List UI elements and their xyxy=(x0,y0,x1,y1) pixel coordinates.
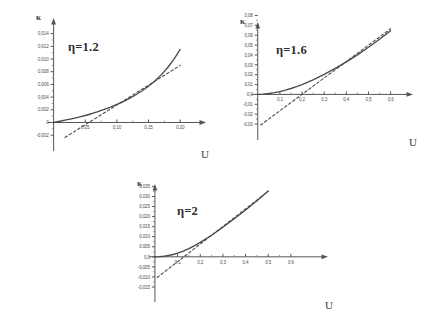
y-tick-label: -0,02 xyxy=(243,112,253,117)
y-tick-label: 0,0 xyxy=(247,92,254,97)
asymptote-dashed-line xyxy=(157,191,268,277)
x-tick-label: 0,15 xyxy=(144,125,153,130)
y-tick-label: -0,005 xyxy=(138,265,151,270)
y-axis-arrow xyxy=(153,184,158,191)
x-tick-label: 0,3 xyxy=(321,97,328,102)
y-tick-label: 0,010 xyxy=(139,234,150,239)
chart-svg-eta-1-6: -0,03-0,02-0,010,00,010,020,030,040,050,… xyxy=(216,6,421,168)
chart-panel-eta-1-2: -0,00200,0020,0040,0060,0080,0100,0120,0… xyxy=(6,6,211,168)
y-tick-label: 0,06 xyxy=(244,33,253,38)
y-tick-label: 0,008 xyxy=(38,69,49,74)
x-tick-label: 0,6 xyxy=(288,260,295,265)
y-tick-label: 0,010 xyxy=(38,57,49,62)
y-tick-label: 0,07 xyxy=(244,23,253,28)
chart-svg-eta-1-2: -0,00200,0020,0040,0060,0080,0100,0120,0… xyxy=(6,6,211,168)
x-axis-title-u: U xyxy=(325,299,333,311)
panel-annotation-eta: η=1.6 xyxy=(276,43,307,57)
y-tick-label: 0,006 xyxy=(38,82,49,87)
y-tick-label: 0,004 xyxy=(38,95,49,100)
y-tick-label: 0,012 xyxy=(38,44,49,49)
x-axis-arrow xyxy=(322,254,329,259)
x-axis-title-u: U xyxy=(409,136,417,148)
y-axis-title-kappa: κ xyxy=(137,178,142,188)
x-axis-title-u: U xyxy=(201,148,209,160)
x-tick-label: 0,5 xyxy=(265,260,272,265)
y-tick-label: 0,04 xyxy=(244,53,253,58)
x-tick-label: 0,6 xyxy=(388,97,395,102)
x-tick-label: 0,4 xyxy=(343,97,350,102)
asymptote-dashed-line xyxy=(65,65,180,137)
chart-panel-eta-2: -0,015-0,010-0,0050,00,0050,0100,0150,02… xyxy=(105,170,337,330)
x-tick-label: 0,1 xyxy=(175,260,182,265)
y-tick-label: 0,002 xyxy=(38,107,49,112)
x-tick-label: 0,4 xyxy=(243,260,250,265)
x-tick-label: 0,20 xyxy=(176,125,185,130)
x-axis-arrow xyxy=(407,92,414,97)
numerical-solid-curve xyxy=(54,49,181,122)
chart-panel-eta-1-6: -0,03-0,02-0,010,00,010,020,030,040,050,… xyxy=(216,6,421,168)
figure-container: -0,00200,0020,0040,0060,0080,0100,0120,0… xyxy=(0,0,422,333)
y-tick-label: 0,02 xyxy=(244,72,253,77)
x-axis-arrow xyxy=(200,120,207,125)
y-tick-label: 0,030 xyxy=(139,194,150,199)
y-tick-label: 0,08 xyxy=(244,13,253,18)
x-tick-label: 0,10 xyxy=(113,125,122,130)
x-tick-label: 0,2 xyxy=(197,260,204,265)
y-axis-arrow xyxy=(51,18,56,25)
y-tick-label: 0,020 xyxy=(139,214,150,219)
x-tick-label: 0,1 xyxy=(277,97,284,102)
y-tick-label: 0,014 xyxy=(38,31,49,36)
panel-annotation-eta: η=1.2 xyxy=(68,40,99,54)
y-tick-label: 0,0 xyxy=(144,255,151,260)
y-tick-label: -0,002 xyxy=(36,133,49,138)
y-tick-label: -0,010 xyxy=(138,275,151,280)
y-tick-label: 0,025 xyxy=(139,204,150,209)
y-tick-label: -0,01 xyxy=(243,102,253,107)
numerical-solid-curve xyxy=(155,191,268,257)
y-tick-label: 0,05 xyxy=(244,43,253,48)
y-tick-label: 0,015 xyxy=(139,224,150,229)
chart-svg-eta-2: -0,015-0,010-0,0050,00,0050,0100,0150,02… xyxy=(105,170,337,330)
numerical-solid-curve xyxy=(258,31,391,95)
panel-annotation-eta: η=2 xyxy=(177,204,198,218)
y-tick-label: 0,03 xyxy=(244,63,253,68)
y-tick-label: 0,005 xyxy=(139,244,150,249)
x-tick-label: 0,2 xyxy=(299,97,306,102)
x-tick-label: 0,3 xyxy=(220,260,227,265)
y-axis-title-kappa: κ xyxy=(36,12,41,22)
y-tick-label: 0,01 xyxy=(244,82,253,87)
y-tick-label: -0,03 xyxy=(243,122,253,127)
y-tick-label: -0,015 xyxy=(138,285,151,290)
y-axis-title-kappa: κ xyxy=(240,16,245,26)
x-tick-label: 0,5 xyxy=(365,97,372,102)
